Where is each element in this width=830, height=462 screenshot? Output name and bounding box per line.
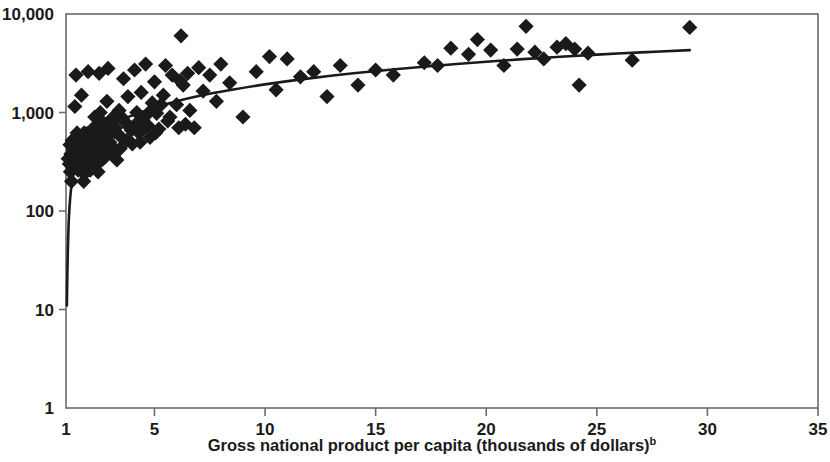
y-tick-label: 1,000: [11, 104, 54, 123]
x-axis-label: Gross national product per capita (thous…: [208, 435, 657, 454]
y-tick-label: 1: [45, 399, 54, 418]
y-tick-label: 100: [26, 202, 54, 221]
x-axis-label-main: Gross national product per capita (thous…: [208, 436, 650, 454]
chart-canvas: 1101001,00010,000 15101520253035 Gross n…: [0, 0, 830, 462]
x-tick-label: 1: [61, 420, 70, 439]
x-axis-label-text: Gross national product per capita (thous…: [208, 435, 657, 454]
x-axis-label-superscript: b: [650, 435, 657, 447]
scatter-chart-figure: 1101001,00010,000 15101520253035 Gross n…: [0, 0, 830, 462]
x-tick-label: 5: [150, 420, 159, 439]
chart-background: [0, 0, 830, 462]
y-tick-label: 10: [35, 301, 54, 320]
y-tick-label: 10,000: [2, 5, 54, 24]
x-tick-label: 35: [809, 420, 828, 439]
x-tick-label: 30: [698, 420, 717, 439]
